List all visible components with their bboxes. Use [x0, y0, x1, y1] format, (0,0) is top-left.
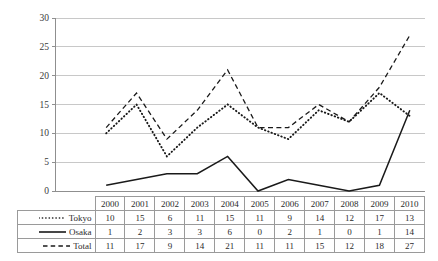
chart-figure: 051015202530 200020012002200320042005200…: [0, 0, 438, 261]
table-column-header: 2001: [125, 197, 155, 211]
table-cell: 12: [335, 211, 365, 225]
table-header-row: 2000200120022003200420052006200720082009…: [18, 197, 425, 211]
legend-line-dashed-icon: [43, 243, 70, 249]
table-cell: 1: [365, 225, 395, 239]
table-cell: 2: [125, 225, 155, 239]
chart-plot-svg: [0, 0, 438, 195]
series-label: Total: [73, 241, 91, 251]
table-cell: 17: [125, 239, 155, 253]
series-legend-cell-total: Total: [18, 239, 96, 253]
table-cell: 3: [155, 225, 185, 239]
table-column-header: 2008: [335, 197, 365, 211]
table-cell: 11: [275, 239, 305, 253]
y-axis-tick-label: 30: [27, 13, 49, 23]
series-line-total: [106, 35, 410, 139]
table-cell: 6: [215, 225, 245, 239]
table-header: 2000200120022003200420052006200720082009…: [18, 197, 425, 211]
table-row: Tokyo10156111511914121713: [18, 211, 425, 225]
table-corner-cell: [18, 197, 96, 211]
table-column-header: 2006: [275, 197, 305, 211]
table-cell: 9: [275, 211, 305, 225]
table-cell: 9: [155, 239, 185, 253]
table-cell: 1: [95, 225, 125, 239]
table-cell: 1: [305, 225, 335, 239]
table-cell: 10: [95, 211, 125, 225]
table-cell: 21: [215, 239, 245, 253]
table-cell: 2: [275, 225, 305, 239]
y-axis-tick-label: 5: [27, 157, 49, 167]
table-cell: 11: [245, 211, 275, 225]
table-cell: 18: [365, 239, 395, 253]
table-cell: 15: [305, 239, 335, 253]
table-cell: 0: [245, 225, 275, 239]
series-legend-cell-tokyo: Tokyo: [18, 211, 96, 225]
table-cell: 14: [185, 239, 215, 253]
series-label: Tokyo: [69, 213, 92, 223]
series-line-osaka: [106, 110, 410, 191]
table-cell: 11: [245, 239, 275, 253]
chart-data-table: 2000200120022003200420052006200720082009…: [17, 196, 425, 253]
table-cell: 12: [335, 239, 365, 253]
table-cell: 17: [365, 211, 395, 225]
table-column-header: 2007: [305, 197, 335, 211]
series-label: Osaka: [69, 227, 92, 237]
table-cell: 15: [215, 211, 245, 225]
table-column-header: 2000: [95, 197, 125, 211]
y-axis-tick-label: 15: [27, 100, 49, 110]
gridlines: [55, 18, 425, 191]
table-cell: 15: [125, 211, 155, 225]
table-cell: 13: [395, 211, 425, 225]
y-axis-tick-label: 20: [27, 71, 49, 81]
table-cell: 11: [95, 239, 125, 253]
table-column-header: 2010: [395, 197, 425, 211]
table-cell: 0: [335, 225, 365, 239]
table-column-header: 2005: [245, 197, 275, 211]
table-column-header: 2003: [185, 197, 215, 211]
table-body: Tokyo10156111511914121713Osaka1233602101…: [18, 211, 425, 253]
table-cell: 11: [185, 211, 215, 225]
table-cell: 14: [305, 211, 335, 225]
series-legend-cell-osaka: Osaka: [18, 225, 96, 239]
table-row: Total111791421111115121827: [18, 239, 425, 253]
table-cell: 27: [395, 239, 425, 253]
y-axis-tick-label: 10: [27, 128, 49, 138]
table-column-header: 2009: [365, 197, 395, 211]
y-axis-tick-label: 0: [27, 186, 49, 196]
table-column-header: 2002: [155, 197, 185, 211]
series-line-tokyo: [106, 93, 410, 156]
table-column-header: 2004: [215, 197, 245, 211]
table-cell: 14: [395, 225, 425, 239]
y-axis-tick-label: 25: [27, 42, 49, 52]
table-cell: 6: [155, 211, 185, 225]
plot-region: 051015202530: [0, 0, 438, 195]
legend-line-dotted-icon: [39, 215, 66, 221]
legend-line-solid-icon: [39, 229, 66, 235]
table-cell: 3: [185, 225, 215, 239]
table-row: Osaka123360210114: [18, 225, 425, 239]
